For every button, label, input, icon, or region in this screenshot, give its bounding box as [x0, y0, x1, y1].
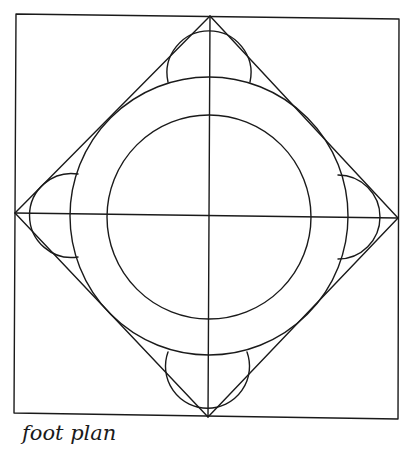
frame-square — [14, 14, 399, 419]
lobe-top — [167, 31, 251, 82]
foot-plan-diagram — [0, 0, 417, 455]
horizontal-axis — [15, 213, 398, 218]
diamond — [15, 16, 398, 417]
lobe-left — [30, 173, 78, 257]
vertical-axis — [208, 16, 210, 417]
figure-caption: foot plan — [22, 423, 116, 444]
